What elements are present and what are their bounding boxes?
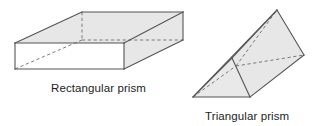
geometry-figure: [0, 0, 326, 126]
rect-prism-front-face: [15, 43, 124, 69]
rectangular-prism-label: Rectangular prism: [51, 83, 146, 95]
triangular-prism-label: Triangular prism: [205, 111, 289, 123]
